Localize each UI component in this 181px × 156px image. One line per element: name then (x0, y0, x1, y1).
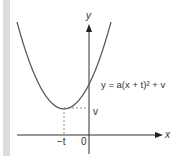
x-axis-arrow-icon (155, 132, 163, 138)
origin-label: 0 (81, 137, 87, 147)
equation-label: y = a(x + t)² + v (101, 80, 165, 90)
y-axis-label: y (86, 11, 91, 21)
vertex-x-label: −t (57, 137, 66, 147)
vertex-y-label: v (93, 107, 98, 117)
x-axis-label: x (165, 130, 170, 140)
graph-canvas (0, 0, 181, 156)
parabola-curve (17, 22, 111, 109)
y-axis-arrow-icon (86, 24, 92, 32)
